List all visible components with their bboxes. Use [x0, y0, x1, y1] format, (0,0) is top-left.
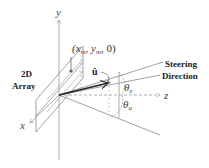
x-axis-label: x: [19, 119, 25, 131]
cone-line-lower: [59, 95, 160, 135]
arc-azimuth: [109, 95, 123, 118]
unit-vector: [59, 83, 108, 95]
array-label-line1: 2D: [21, 69, 33, 79]
theta-e-label: θe: [124, 81, 133, 95]
coordinate-diagram: y z x 2D Array (xm, ym, 0) û θe θa Steer…: [0, 0, 209, 168]
arc-small: [101, 72, 109, 84]
theta-a-sub: a: [128, 104, 132, 112]
z-axis-label: z: [163, 89, 169, 101]
unit-vector-label: û: [92, 66, 98, 77]
coord-end: , 0): [101, 42, 116, 55]
theta-e-sub: e: [129, 87, 132, 95]
steering-label-line1: Steering: [165, 59, 197, 69]
element-coordinate-label: (xm, ym, 0): [72, 42, 116, 56]
coord-mid: , y: [86, 42, 97, 54]
cone-line-upper: [59, 62, 163, 95]
steering-label-line2: Direction: [162, 71, 198, 81]
x-axis: [30, 95, 59, 123]
y-axis-label: y: [55, 6, 61, 18]
theta-a-label: θa: [123, 98, 132, 112]
array-label-line2: Array: [12, 81, 36, 91]
array-line: [36, 62, 83, 116]
coord-open: (x: [72, 42, 81, 55]
